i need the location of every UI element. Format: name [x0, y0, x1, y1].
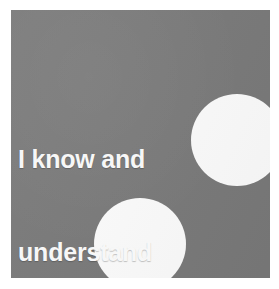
caption-line-2: understand — [11, 237, 270, 268]
image-canvas: I know and understand you — [0, 0, 279, 289]
caption-text-block: I know and understand you — [11, 82, 270, 278]
caption-line-1: I know and — [11, 144, 270, 175]
gray-card: I know and understand you — [11, 10, 270, 278]
